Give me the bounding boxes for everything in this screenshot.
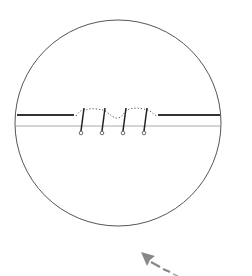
needle-2 xyxy=(102,108,105,131)
needle-4 xyxy=(144,108,147,131)
needle-group xyxy=(79,108,147,135)
arrow-icon xyxy=(141,252,178,276)
needle-eye-4 xyxy=(142,131,146,135)
needle-eye-3 xyxy=(121,131,125,135)
needle-eye-1 xyxy=(79,131,83,135)
needle-1 xyxy=(81,108,84,131)
dotted-thread xyxy=(76,108,157,118)
seam-diagram xyxy=(0,0,252,276)
magnifier-circle xyxy=(15,20,221,226)
needle-3 xyxy=(123,108,126,131)
needle-eye-2 xyxy=(100,131,104,135)
